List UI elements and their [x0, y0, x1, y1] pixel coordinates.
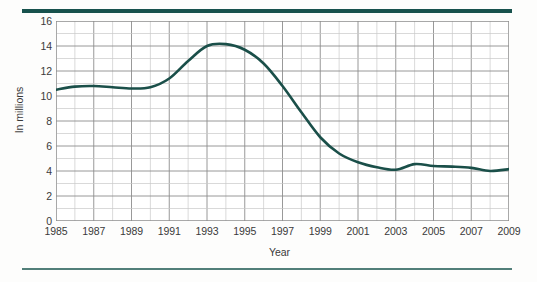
x-axis-title: Year	[0, 246, 537, 258]
y-axis-tick-2: 2	[6, 191, 52, 201]
y-axis-tick-labels: 1614121086420	[0, 21, 52, 221]
x-axis-tick-1985: 1985	[36, 225, 76, 237]
x-axis-tick-1991: 1991	[149, 225, 189, 237]
x-axis-tick-2007: 2007	[451, 225, 491, 237]
x-axis-tick-1989: 1989	[112, 225, 152, 237]
plot-area	[56, 21, 509, 221]
y-axis-tick-12: 12	[6, 66, 52, 76]
y-axis-tick-10: 10	[6, 91, 52, 101]
x-axis-tick-1995: 1995	[225, 225, 265, 237]
x-axis-tick-2009: 2009	[489, 225, 529, 237]
y-axis-tick-14: 14	[6, 41, 52, 51]
top-divider-rule	[22, 9, 512, 13]
x-axis-title-text: Year	[269, 246, 290, 258]
x-axis-tick-2003: 2003	[376, 225, 416, 237]
x-axis-tick-labels: 1985198719891991199319951997199920012003…	[56, 225, 509, 241]
y-axis-tick-8: 8	[6, 116, 52, 126]
x-axis-tick-1987: 1987	[74, 225, 114, 237]
y-axis-tick-6: 6	[6, 141, 52, 151]
x-axis-tick-2005: 2005	[414, 225, 454, 237]
line-chart-svg	[56, 21, 509, 221]
bottom-divider-rule	[22, 268, 512, 270]
x-axis-tick-1997: 1997	[263, 225, 303, 237]
x-axis-tick-1993: 1993	[187, 225, 227, 237]
y-axis-tick-16: 16	[6, 16, 52, 26]
chart-figure: In millions 1614121086420 19851987198919…	[0, 0, 537, 282]
x-axis-tick-1999: 1999	[300, 225, 340, 237]
x-axis-tick-2001: 2001	[338, 225, 378, 237]
y-axis-tick-4: 4	[6, 166, 52, 176]
